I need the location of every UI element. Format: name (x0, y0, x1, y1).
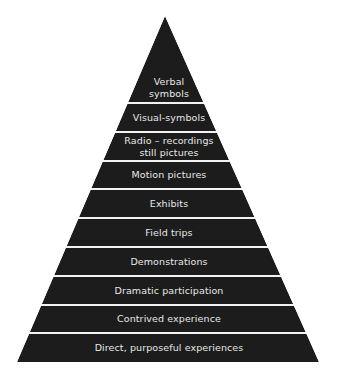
level-visual-symbols: Visual-symbols (0, 112, 338, 124)
level-verbal-symbols: Verbal symbols (0, 76, 338, 100)
level-motion-pictures: Motion pictures (0, 169, 338, 181)
level-field-trips: Field trips (0, 227, 338, 239)
level-label-line: still pictures (0, 147, 338, 159)
level-radio-recordings-still-pictures: Radio – recordings still pictures (0, 135, 338, 159)
level-exhibits: Exhibits (0, 198, 338, 210)
level-dramatic-participation: Dramatic participation (0, 285, 338, 297)
level-label-line: symbols (0, 88, 338, 100)
level-label-line: Radio – recordings (0, 135, 338, 147)
level-demonstrations: Demonstrations (0, 256, 338, 268)
level-direct-purposeful-experiences: Direct, purposeful experiences (0, 342, 338, 354)
level-label-line: Verbal (0, 76, 338, 88)
level-contrived-experience: Contrived experience (0, 313, 338, 325)
